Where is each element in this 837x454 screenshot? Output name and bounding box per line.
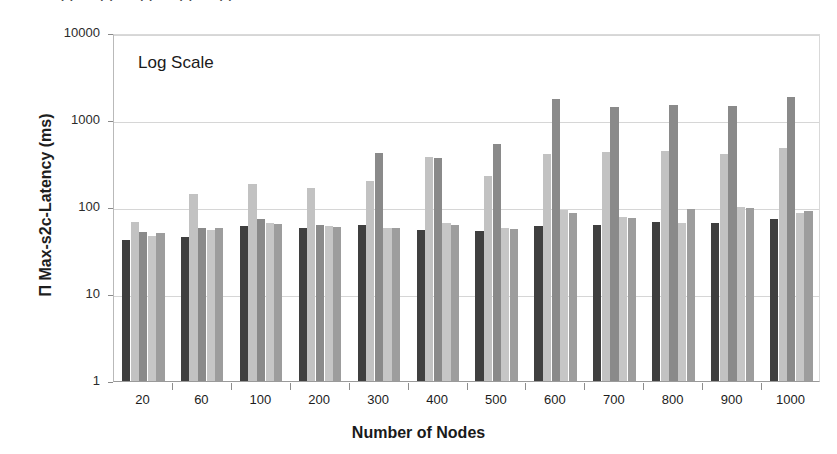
bar-500-series-4 — [501, 228, 509, 381]
bar-800-series-4 — [678, 223, 686, 381]
legend-item-4: (e) — [218, 0, 232, 1]
bar-900-series-1 — [711, 223, 719, 381]
x-tick-label-300: 300 — [367, 392, 389, 407]
bar-900-series-5 — [746, 208, 754, 381]
y-axis-labels: 100001000100101 — [0, 0, 105, 454]
bar-group-60 — [173, 35, 232, 381]
y-tick-label-10: 10 — [40, 287, 100, 300]
bar-200-series-5 — [333, 227, 341, 381]
bar-1000-series-1 — [770, 219, 778, 381]
x-tick-mark-60 — [172, 383, 173, 390]
bar-group-900 — [703, 35, 762, 381]
bar-100-series-4 — [266, 223, 274, 381]
bar-600-series-4 — [560, 210, 568, 381]
bar-group-700 — [585, 35, 644, 381]
bar-900-series-2 — [720, 154, 728, 381]
bar-700-series-5 — [628, 218, 636, 381]
bar-20-series-4 — [148, 236, 156, 381]
bar-group-400 — [409, 35, 468, 381]
bar-800-series-2 — [661, 151, 669, 381]
bar-60-series-5 — [215, 228, 223, 381]
bar-800-series-3 — [669, 105, 677, 381]
bar-600-series-5 — [569, 213, 577, 381]
bar-600-series-3 — [552, 99, 560, 381]
bar-400-series-2 — [425, 157, 433, 381]
x-tick-label-500: 500 — [485, 392, 507, 407]
bar-group-500 — [468, 35, 527, 381]
x-tick-label-200: 200 — [308, 392, 330, 407]
x-tick-mark-1000 — [761, 383, 762, 390]
bar-300-series-1 — [358, 225, 366, 381]
bar-group-200 — [291, 35, 350, 381]
bar-series-container — [114, 35, 819, 381]
bar-900-series-4 — [737, 207, 745, 381]
x-tick-label-100: 100 — [249, 392, 271, 407]
bar-500-series-3 — [493, 144, 501, 381]
bar-100-series-3 — [257, 219, 265, 381]
x-axis: 20601002003004005006007008009001000 — [113, 383, 820, 413]
bar-200-series-2 — [307, 188, 315, 381]
bar-200-series-4 — [325, 226, 333, 381]
bar-700-series-2 — [602, 152, 610, 381]
bar-600-series-2 — [543, 154, 551, 381]
x-tick-mark-800 — [643, 383, 644, 390]
x-tick-label-20: 20 — [135, 392, 149, 407]
x-tick-label-900: 900 — [721, 392, 743, 407]
bar-200-series-3 — [316, 225, 324, 381]
x-tick-mark-600 — [525, 383, 526, 390]
legend-cropped: (a) (b) (c) (d) (e) — [0, 0, 837, 12]
bar-700-series-1 — [593, 225, 601, 381]
bar-60-series-3 — [198, 228, 206, 381]
bar-1000-series-5 — [804, 211, 812, 381]
y-tick-label-1: 1 — [40, 374, 100, 387]
x-tick-label-600: 600 — [544, 392, 566, 407]
y-tick-label-1000: 1000 — [40, 113, 100, 126]
bar-group-300 — [350, 35, 409, 381]
bar-500-series-2 — [484, 176, 492, 381]
bar-800-series-5 — [687, 209, 695, 381]
x-tick-label-800: 800 — [662, 392, 684, 407]
bar-400-series-5 — [451, 225, 459, 381]
bar-700-series-4 — [619, 217, 627, 381]
bar-300-series-5 — [392, 228, 400, 381]
bar-800-series-1 — [652, 222, 660, 381]
bar-400-series-1 — [417, 230, 425, 381]
x-tick-mark-900 — [702, 383, 703, 390]
bar-1000-series-4 — [796, 213, 804, 381]
legend-item-3: (d) — [179, 0, 194, 1]
y-tick-label-10000: 10000 — [40, 26, 100, 39]
x-tick-label-400: 400 — [426, 392, 448, 407]
bar-20-series-5 — [156, 233, 164, 381]
plot-area: Log Scale — [113, 34, 820, 382]
x-tick-mark-200 — [290, 383, 291, 390]
bar-60-series-1 — [181, 237, 189, 381]
bar-group-20 — [114, 35, 173, 381]
bar-300-series-2 — [366, 181, 374, 381]
bar-20-series-2 — [131, 222, 139, 381]
bar-500-series-5 — [510, 229, 518, 381]
bar-group-800 — [644, 35, 703, 381]
bar-900-series-3 — [728, 106, 736, 381]
x-tick-mark-700 — [584, 383, 585, 390]
bar-200-series-1 — [299, 228, 307, 381]
x-tick-label-60: 60 — [194, 392, 208, 407]
y-tick-label-100: 100 — [40, 200, 100, 213]
bar-20-series-1 — [122, 240, 130, 381]
bar-700-series-3 — [610, 107, 618, 381]
chart-canvas: (a) (b) (c) (d) (e) Π Max-s2c-Latency (m… — [0, 0, 837, 454]
bar-500-series-1 — [475, 231, 483, 381]
bar-600-series-1 — [534, 226, 542, 381]
legend-item-2: (c) — [139, 0, 153, 1]
x-tick-mark-400 — [408, 383, 409, 390]
bar-1000-series-2 — [779, 148, 787, 381]
bar-1000-series-3 — [787, 97, 795, 381]
x-axis-title: Number of Nodes — [0, 424, 837, 442]
bar-400-series-4 — [442, 223, 450, 381]
bar-group-1000 — [762, 35, 821, 381]
bar-300-series-4 — [383, 228, 391, 381]
bar-20-series-3 — [139, 232, 147, 381]
bar-60-series-4 — [207, 230, 215, 381]
x-tick-mark-500 — [467, 383, 468, 390]
x-tick-label-700: 700 — [603, 392, 625, 407]
bar-60-series-2 — [189, 194, 197, 381]
